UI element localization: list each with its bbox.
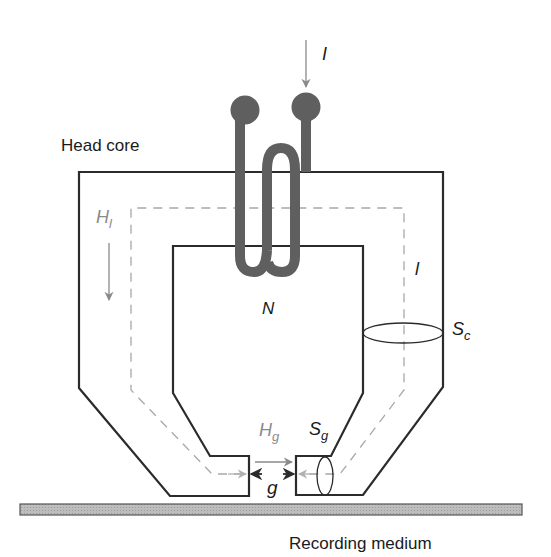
head-core-left xyxy=(79,172,443,496)
gap-area-subscript: g xyxy=(321,428,328,443)
gap-field-label: Hg xyxy=(259,420,279,441)
coil-terminal-left xyxy=(231,96,260,125)
gap-field-subscript: g xyxy=(272,429,279,444)
recording-medium xyxy=(20,504,522,515)
core-field-label: Hl xyxy=(96,207,112,228)
gap-field-symbol: H xyxy=(259,420,272,440)
core-area-subscript: c xyxy=(464,328,470,343)
gap-length-label: g xyxy=(267,477,278,499)
recording-medium-label: Recording medium xyxy=(289,534,432,554)
head-core-label: Head core xyxy=(61,136,139,156)
gap-area-symbol: S xyxy=(309,419,321,439)
turns-label: N xyxy=(262,299,274,319)
head-core-diagram xyxy=(0,0,551,557)
path-length-label: l xyxy=(415,259,419,280)
coil-terminal-right xyxy=(292,93,321,122)
core-field-subscript: l xyxy=(109,216,112,231)
gap-area-label: Sg xyxy=(309,419,328,440)
core-area-symbol: S xyxy=(452,319,464,339)
core-field-symbol: H xyxy=(96,207,109,227)
core-area-label: Sc xyxy=(452,319,471,340)
current-label: I xyxy=(322,44,327,65)
